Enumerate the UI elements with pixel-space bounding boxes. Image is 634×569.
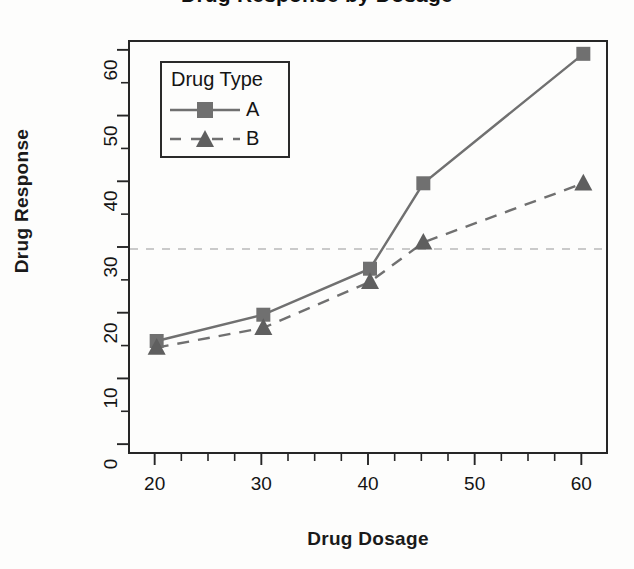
y-tick-label-50: 50	[100, 116, 122, 156]
legend-key-triangle-dashed-icon	[168, 125, 242, 153]
y-tick-label-0: 0	[100, 444, 122, 484]
x-tick-label-30: 30	[231, 473, 291, 495]
y-tick-label-30: 30	[100, 247, 122, 287]
x-tick-label-50: 50	[445, 473, 505, 495]
y-tick-label-10: 10	[100, 378, 122, 418]
legend-title: Drug Type	[171, 68, 263, 91]
data-point-b-60	[574, 174, 592, 191]
y-tick-label-20: 20	[100, 313, 122, 353]
data-point-a-60	[576, 47, 590, 61]
legend-entry-b: B	[162, 125, 292, 153]
chart-legend: Drug Type A B	[160, 61, 290, 158]
data-point-a-45	[416, 176, 430, 190]
chart-figure: Drug Response by Dosage Drug Response Dr…	[0, 0, 634, 569]
legend-entry-a: A	[162, 96, 292, 124]
legend-key-square-solid-icon	[168, 96, 242, 124]
legend-label-b: B	[246, 127, 259, 150]
y-tick-label-60: 60	[100, 50, 122, 90]
legend-label-a: A	[246, 98, 259, 121]
y-tick-label-40: 40	[100, 181, 122, 221]
x-tick-label-60: 60	[551, 473, 611, 495]
x-tick-label-40: 40	[338, 473, 398, 495]
x-tick-label-20: 20	[125, 473, 185, 495]
